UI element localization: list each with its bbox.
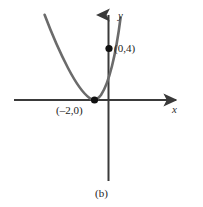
point-vertex <box>91 96 98 103</box>
figure-caption: (b) <box>0 188 203 199</box>
parabola-figure: y x (0,4) (–2,0) (b) <box>0 0 203 207</box>
y-intercept-point-label: (0,4) <box>114 43 135 54</box>
point-y-intercept <box>105 45 112 52</box>
vertex-point-label: (–2,0) <box>56 105 83 116</box>
y-axis-label: y <box>118 10 123 21</box>
x-axis-label: x <box>172 104 177 115</box>
